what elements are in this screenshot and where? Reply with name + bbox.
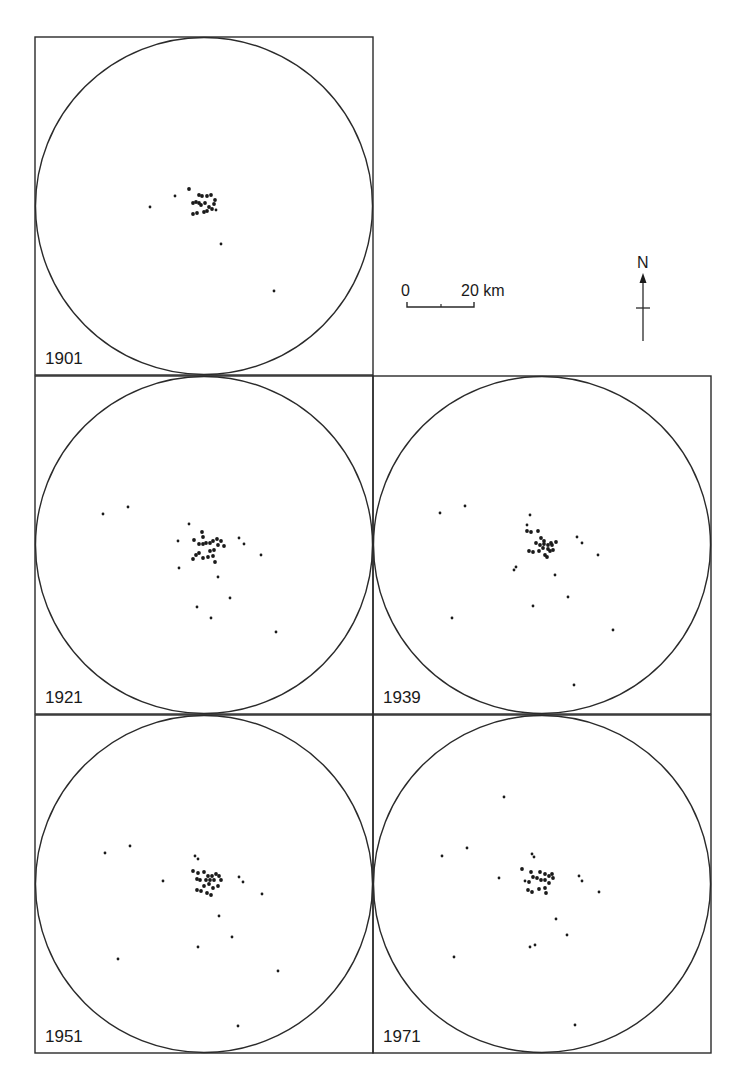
settlement-dot bbox=[202, 870, 206, 874]
north-arrow: N bbox=[636, 254, 650, 341]
settlement-dot bbox=[543, 872, 547, 876]
settlement-dot bbox=[201, 556, 205, 560]
settlement-dot bbox=[177, 540, 180, 543]
settlement-dot bbox=[524, 880, 527, 883]
settlement-dot bbox=[191, 212, 195, 216]
settlement-dot bbox=[194, 855, 197, 858]
settlement-dot bbox=[231, 936, 234, 939]
settlement-dot bbox=[218, 915, 221, 918]
settlement-dot bbox=[213, 198, 217, 202]
settlement-dot bbox=[238, 876, 241, 879]
settlement-dot bbox=[555, 918, 558, 921]
settlement-dot bbox=[237, 1025, 240, 1028]
settlement-dot bbox=[529, 530, 533, 534]
settlement-dot bbox=[531, 853, 534, 856]
settlement-dot bbox=[537, 887, 541, 891]
settlement-dot bbox=[513, 569, 516, 572]
settlement-dot bbox=[202, 884, 206, 888]
settlement-dot bbox=[211, 554, 215, 558]
settlement-dot bbox=[526, 524, 529, 527]
settlement-dot bbox=[525, 529, 529, 533]
scale-bar: 0 20 km bbox=[401, 282, 505, 307]
settlement-dot bbox=[535, 876, 539, 880]
map-panel-1939: 1939 bbox=[373, 376, 711, 714]
panel-year-label: 1971 bbox=[383, 1027, 421, 1046]
settlement-dot bbox=[574, 1024, 577, 1027]
settlement-dot bbox=[102, 513, 105, 516]
settlement-dot bbox=[210, 617, 213, 620]
panel-frame bbox=[373, 715, 711, 1053]
settlement-dot bbox=[212, 202, 216, 206]
settlement-dot bbox=[196, 871, 200, 875]
settlement-dot bbox=[529, 870, 533, 874]
settlement-dot bbox=[551, 876, 555, 880]
settlement-dot bbox=[526, 888, 530, 892]
settlement-dot bbox=[205, 194, 209, 198]
settlement-dot bbox=[187, 187, 191, 191]
settlement-dot bbox=[536, 529, 540, 533]
settlement-dot bbox=[208, 878, 212, 882]
settlement-dot bbox=[277, 970, 280, 973]
panel-year-label: 1921 bbox=[45, 688, 83, 707]
settlement-dot bbox=[174, 195, 177, 198]
settlement-dot bbox=[261, 893, 264, 896]
settlement-dot bbox=[581, 880, 584, 883]
settlement-dot bbox=[531, 875, 535, 879]
settlement-dot bbox=[229, 597, 232, 600]
settlement-dot bbox=[200, 530, 204, 534]
settlement-dot bbox=[439, 512, 442, 515]
settlement-dot bbox=[207, 882, 211, 886]
north-label: N bbox=[637, 254, 649, 271]
settlement-points bbox=[104, 845, 280, 1028]
map-panel-1951: 1951 bbox=[35, 715, 373, 1053]
settlement-dot bbox=[201, 535, 205, 539]
study-area-circle bbox=[36, 716, 373, 1053]
settlement-dot bbox=[178, 567, 181, 570]
north-arrow-head-icon bbox=[640, 273, 647, 283]
settlement-dot bbox=[209, 193, 213, 197]
settlement-points bbox=[441, 796, 601, 1027]
settlement-dot bbox=[549, 541, 553, 545]
settlement-dot bbox=[597, 554, 600, 557]
settlement-dot bbox=[211, 539, 215, 543]
settlement-dot bbox=[188, 523, 191, 526]
map-panel-1971: 1971 bbox=[373, 715, 711, 1053]
settlement-dot bbox=[537, 549, 541, 553]
settlement-dot bbox=[527, 549, 531, 553]
settlement-dot bbox=[543, 878, 547, 882]
settlement-dot bbox=[204, 878, 208, 882]
settlement-dot bbox=[219, 539, 223, 543]
panel-frame bbox=[35, 715, 373, 1053]
settlement-dot bbox=[195, 211, 199, 215]
settlement-dot bbox=[541, 546, 545, 550]
settlement-dot bbox=[576, 536, 579, 539]
settlement-dot bbox=[203, 201, 207, 205]
settlement-dot bbox=[191, 869, 195, 873]
settlement-dot bbox=[550, 872, 554, 876]
settlement-dot bbox=[578, 875, 581, 878]
settlement-dot bbox=[195, 888, 199, 892]
settlement-dot bbox=[210, 874, 214, 878]
settlement-dot bbox=[554, 574, 557, 577]
settlement-dot bbox=[530, 890, 534, 894]
settlement-dot bbox=[534, 541, 538, 545]
settlement-dot bbox=[539, 878, 543, 882]
settlement-dot bbox=[551, 548, 555, 552]
settlement-dot bbox=[531, 550, 535, 554]
settlement-dot bbox=[196, 606, 199, 609]
settlement-dot bbox=[520, 867, 524, 871]
settlement-dot bbox=[529, 514, 532, 517]
settlement-dot bbox=[529, 946, 532, 949]
panel-frame bbox=[35, 37, 373, 375]
settlement-dot bbox=[220, 243, 223, 246]
settlement-dot bbox=[542, 539, 546, 543]
settlement-dot bbox=[215, 209, 218, 212]
settlement-dot bbox=[554, 540, 558, 544]
settlement-dot bbox=[199, 889, 203, 893]
settlement-dot bbox=[533, 856, 536, 859]
settlement-dot bbox=[532, 605, 535, 608]
settlement-dot bbox=[243, 543, 246, 546]
settlement-dot bbox=[192, 538, 196, 542]
settlement-dot bbox=[191, 201, 195, 205]
settlement-dot bbox=[534, 944, 537, 947]
